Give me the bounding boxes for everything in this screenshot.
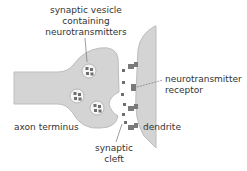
dendrite-label: dendrite (143, 122, 181, 133)
axon-terminus-label: axon terminus (14, 122, 79, 133)
receptor-label: neurotransmitter receptor (165, 74, 242, 96)
vesicle-label-line: synaptic vesicle (38, 5, 134, 16)
vesicle (70, 89, 84, 103)
vesicle-label-line: neurotransmitters (38, 27, 134, 38)
receptor-label-line: neurotransmitter (165, 74, 242, 85)
axon-terminus-shape (14, 48, 119, 128)
neurotransmitter-particles (121, 69, 127, 124)
cleft-label-line: cleft (92, 154, 136, 165)
vesicle (90, 101, 104, 115)
vesicle-label: synaptic vesicle containing neurotransmi… (38, 5, 134, 38)
receptor-label-line: receptor (165, 85, 242, 96)
vesicle-label-line: containing (38, 16, 134, 27)
cleft-leader-line (116, 124, 122, 142)
vesicle (82, 64, 96, 78)
cleft-label-line: synaptic (92, 143, 136, 154)
cleft-label: synaptic cleft (92, 143, 136, 165)
